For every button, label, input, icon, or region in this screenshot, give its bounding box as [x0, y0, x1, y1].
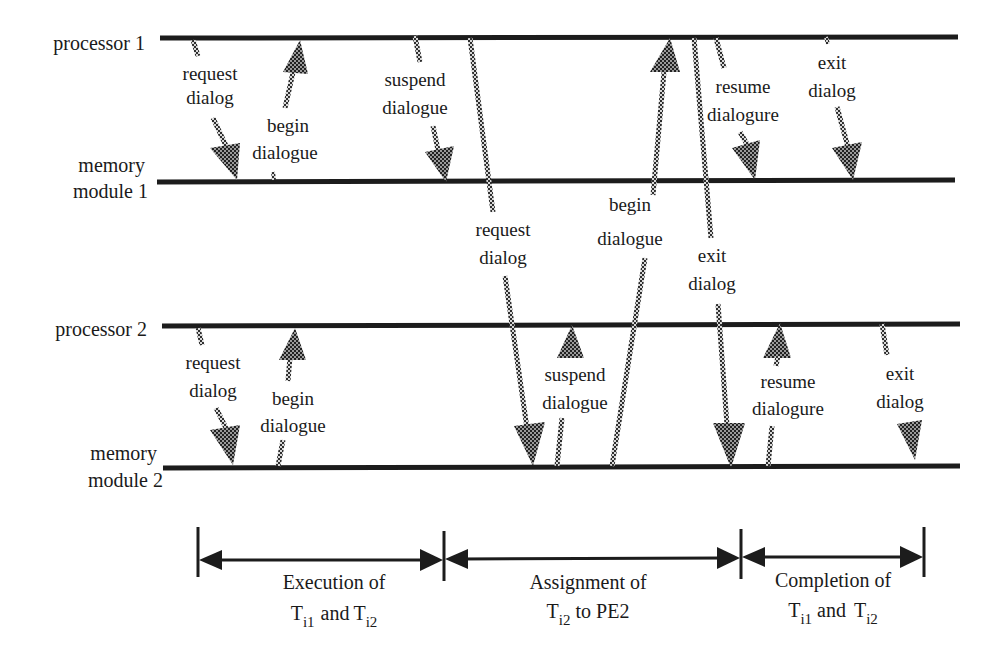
msg-label-suspend: suspend	[384, 69, 446, 90]
arrowhead-left-icon	[199, 550, 222, 570]
phase-label-execution: Execution of Ti1andTi2	[283, 571, 386, 630]
label-memory-module-2-line2: module 2	[88, 469, 163, 491]
msg-label-dialog: dialog	[688, 273, 736, 294]
svg-text:Ti2to PE2: Ti2to PE2	[547, 600, 630, 628]
arrow-p2-exit-dialog: exit dialog	[876, 324, 924, 460]
msg-label-resume: resume	[761, 371, 816, 392]
arrow-p1-exit-dialog: exit dialog	[808, 37, 862, 180]
arrow-p2-request-dialog: request dialog	[186, 328, 242, 465]
msg-label-dialog: dialog	[189, 380, 237, 401]
lane-line-processor-1	[160, 37, 958, 38]
msg-label-request: request	[183, 63, 239, 84]
msg-label-request: request	[186, 352, 242, 373]
msg-label-exit: exit	[886, 363, 915, 384]
msg-label-dialogue: dialogue	[252, 142, 317, 163]
arrowhead-right-icon	[420, 549, 443, 571]
arrow-p1-suspend-dialogue: suspend dialogue	[382, 36, 454, 182]
msg-label-dialog: dialog	[808, 80, 856, 101]
lane-line-memory-module-2	[163, 466, 960, 468]
msg-label-begin: begin	[609, 194, 652, 215]
arrow-p1-resume-dialogure: resume dialogure	[707, 38, 779, 180]
msg-label-dialog: dialog	[186, 87, 234, 108]
arrow-p1-request-dialog-to-m2: request dialog	[470, 38, 545, 466]
msg-label-dialog: dialog	[876, 391, 924, 412]
arrowhead-right-icon	[717, 547, 740, 569]
label-memory-module-1-line2: module 1	[73, 180, 148, 202]
label-processor-2: processor 2	[55, 318, 147, 341]
msg-label-dialogue: dialogue	[382, 97, 447, 118]
svg-text:Ti1andTi2: Ti1andTi2	[788, 599, 878, 627]
message-sequence-diagram: processor 1 memory module 1 processor 2 …	[0, 0, 996, 659]
label-processor-1: processor 1	[53, 32, 145, 55]
phase-arrow-assignment	[445, 547, 740, 569]
msg-label-dialogure: dialogure	[752, 398, 824, 419]
msg-label-exit: exit	[698, 245, 727, 266]
svg-text:Assignment of: Assignment of	[529, 571, 647, 594]
arrow-m2-resume-dialogure: resume dialogure	[752, 323, 824, 466]
msg-label-exit: exit	[818, 52, 847, 73]
phase-label-completion: Completion of Ti1andTi2	[775, 569, 891, 627]
msg-label-dialogue: dialogue	[542, 392, 607, 413]
arrow-p1-request-dialog: request dialog	[183, 40, 240, 180]
svg-text:Ti1andTi2: Ti1andTi2	[291, 602, 378, 630]
msg-label-begin: begin	[267, 115, 310, 136]
arrow-m1-begin-dialogue: begin dialogue	[252, 40, 317, 180]
msg-label-dialogue: dialogue	[260, 415, 325, 436]
arrowhead-right-icon	[900, 546, 923, 568]
svg-text:Completion of: Completion of	[775, 569, 891, 592]
arrow-m2-suspend-dialogue: suspend dialogue	[542, 325, 607, 466]
lane-labels: processor 1 memory module 1 processor 2 …	[53, 32, 163, 491]
phase-arrow-execution	[199, 549, 443, 571]
arrow-m2-begin-dialogue: begin dialogue	[260, 328, 325, 466]
label-memory-module-2-line1: memory	[90, 442, 157, 465]
arrow-m2-begin-dialogue-to-p1: begin dialogue	[597, 38, 680, 466]
arrowhead-left-icon	[742, 547, 765, 567]
phase-label-assignment: Assignment of Ti2to PE2	[529, 571, 647, 628]
msg-label-suspend: suspend	[544, 364, 606, 385]
msg-label-dialog: dialog	[479, 247, 527, 268]
msg-label-dialogure: dialogure	[707, 104, 779, 125]
phase-arrow-completion	[742, 546, 923, 568]
arrow-p1-exit-dialog-to-m2: exit dialog	[688, 38, 745, 468]
msg-label-resume: resume	[716, 76, 771, 97]
lane-line-memory-module-1	[157, 180, 955, 182]
msg-label-request: request	[476, 219, 532, 240]
phase-timeline: Execution of Ti1andTi2 Assignment of Ti2…	[198, 527, 924, 630]
lane-line-processor-2	[162, 324, 960, 326]
label-memory-module-1-line1: memory	[78, 154, 145, 177]
msg-label-begin: begin	[272, 388, 315, 409]
arrowhead-left-icon	[445, 549, 468, 569]
svg-text:Execution of: Execution of	[283, 571, 386, 593]
msg-label-dialogue: dialogue	[597, 228, 662, 249]
